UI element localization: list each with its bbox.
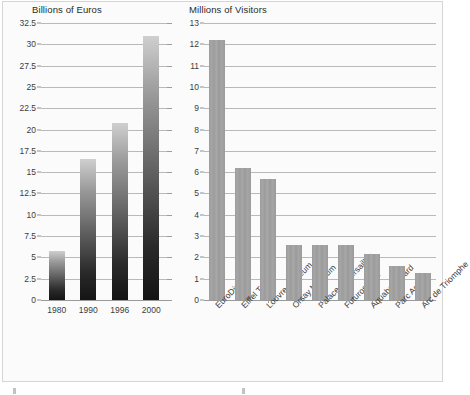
y-axis-tick-mark: [37, 236, 41, 237]
right-chart-y-axis-title: Millions of Visitors: [189, 4, 267, 15]
y-axis-tick-mark: [37, 150, 41, 151]
bar: [260, 179, 276, 300]
y-axis-tick-label: 8: [194, 125, 199, 135]
y-axis-tick-label: 15: [27, 167, 36, 177]
y-axis-tick-mark: [37, 278, 41, 279]
y-axis-tick-mark: [200, 172, 204, 173]
y-axis-tick-label: 17.5: [19, 146, 36, 156]
x-axis-category-label: 1980: [47, 305, 66, 315]
y-axis-tick-label: 2.5: [24, 274, 36, 284]
y-axis-tick-mark: [200, 214, 204, 215]
y-axis-tick-label: 7: [194, 146, 199, 156]
y-axis-right-tick-mark: [167, 130, 172, 131]
chart-tourism-revenue: Billions of Euros 02.557.51012.51517.520…: [6, 4, 182, 349]
y-axis-tick-mark: [37, 214, 41, 215]
y-axis-right-tick-mark: [167, 87, 172, 88]
gridline: [204, 108, 436, 109]
footer-mark-right: [242, 388, 245, 394]
y-axis-right-tick-mark: [167, 300, 172, 301]
y-axis-tick-mark: [37, 300, 41, 301]
y-axis-tick-mark: [200, 278, 204, 279]
chart-attraction-visitors: Millions of Visitors 012345678910111213E…: [184, 4, 442, 374]
y-axis-tick-mark: [37, 108, 41, 109]
y-axis-tick-label: 0: [31, 295, 36, 305]
y-axis-tick-label: 7.5: [24, 231, 36, 241]
y-axis-tick-mark: [200, 44, 204, 45]
y-axis-right-tick-mark: [167, 108, 172, 109]
x-axis-tick-mark: [243, 300, 244, 303]
y-axis-tick-label: 0: [194, 295, 199, 305]
y-axis-right-tick-mark: [167, 151, 172, 152]
y-axis-tick-mark: [200, 65, 204, 66]
y-axis-right-tick-mark: [167, 66, 172, 67]
x-axis-tick-mark: [268, 300, 269, 303]
bar: [209, 40, 225, 300]
gridline: [204, 44, 436, 45]
y-axis-right-tick-mark: [167, 193, 172, 194]
y-axis-tick-mark: [37, 129, 41, 130]
gridline: [204, 130, 436, 131]
y-axis-tick-label: 10: [27, 210, 36, 220]
y-axis-tick-label: 6: [194, 167, 199, 177]
right-chart-plot-area: 012345678910111213EuroDisneyEiffel Tower…: [204, 23, 436, 300]
y-axis-tick-mark: [37, 44, 41, 45]
y-axis-right-tick-mark: [167, 44, 172, 45]
y-axis-tick-label: 9: [194, 103, 199, 113]
y-axis-tick-label: 3: [194, 231, 199, 241]
y-axis-tick-mark: [200, 23, 204, 24]
footer-mark-left: [13, 388, 16, 394]
bar: [80, 159, 96, 300]
y-axis-right-tick-mark: [167, 215, 172, 216]
gridline: [41, 300, 167, 301]
y-axis-tick-label: 10: [190, 82, 199, 92]
y-axis-tick-label: 27.5: [19, 61, 36, 71]
y-axis-right-tick-mark: [167, 279, 172, 280]
x-axis-tick-mark: [397, 300, 398, 303]
y-axis-tick-label: 1: [194, 274, 199, 284]
y-axis-tick-mark: [200, 108, 204, 109]
gridline: [204, 66, 436, 67]
x-axis-tick-mark: [372, 300, 373, 303]
y-axis-tick-label: 5: [194, 188, 199, 198]
y-axis-tick-mark: [37, 257, 41, 258]
gridline: [41, 23, 167, 24]
y-axis-tick-label: 25: [27, 82, 36, 92]
y-axis-tick-mark: [200, 150, 204, 151]
y-axis-tick-mark: [37, 65, 41, 66]
y-axis-tick-label: 12.5: [19, 188, 36, 198]
y-axis-tick-label: 13: [190, 18, 199, 28]
x-axis-tick-mark: [346, 300, 347, 303]
y-axis-tick-mark: [37, 193, 41, 194]
y-axis-tick-mark: [37, 23, 41, 24]
y-axis-right-tick-mark: [167, 257, 172, 258]
x-axis-category-label: 2000: [142, 305, 161, 315]
x-axis-tick-mark: [320, 300, 321, 303]
y-axis-tick-mark: [37, 172, 41, 173]
y-axis-right-tick-mark: [167, 23, 172, 24]
y-axis-right-tick-mark: [167, 172, 172, 173]
y-axis-tick-mark: [200, 193, 204, 194]
x-axis-tick-mark: [217, 300, 218, 303]
left-chart-plot-area: 02.557.51012.51517.52022.52527.53032.519…: [41, 23, 167, 300]
y-axis-tick-mark: [200, 86, 204, 87]
bar: [143, 36, 159, 300]
gridline: [204, 151, 436, 152]
y-axis-tick-label: 20: [27, 125, 36, 135]
y-axis-tick-label: 32.5: [19, 18, 36, 28]
y-axis-tick-mark: [200, 300, 204, 301]
gridline: [204, 87, 436, 88]
y-axis-tick-label: 2: [194, 252, 199, 262]
y-axis-right-tick-mark: [167, 236, 172, 237]
x-axis-tick-mark: [294, 300, 295, 303]
x-axis-tick-mark: [423, 300, 424, 303]
gridline: [204, 23, 436, 24]
left-chart-y-axis-title: Billions of Euros: [32, 4, 102, 15]
y-axis-tick-mark: [37, 86, 41, 87]
y-axis-tick-mark: [200, 257, 204, 258]
y-axis-tick-label: 4: [194, 210, 199, 220]
y-axis-tick-label: 12: [190, 39, 199, 49]
y-axis-tick-mark: [200, 236, 204, 237]
y-axis-tick-label: 22.5: [19, 103, 36, 113]
y-axis-tick-label: 30: [27, 39, 36, 49]
